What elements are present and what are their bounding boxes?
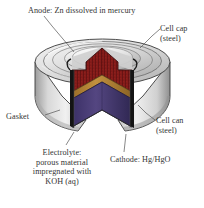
leader-electrolyte	[66, 132, 74, 145]
leader-cell-cap	[140, 29, 160, 48]
label-anode: Anode: Zn dissolved in mercury	[28, 6, 135, 16]
battery-cutaway-figure: Anode: Zn dissolved in mercury Cell cap …	[0, 0, 204, 208]
label-cathode: Cathode: Hg/HgO	[110, 155, 171, 165]
label-gasket: Gasket	[6, 112, 29, 122]
label-cell-cap: Cell cap (steel)	[160, 24, 187, 43]
cutaway-wedge	[67, 47, 137, 128]
label-cell-can: Cell can (steel)	[156, 116, 183, 135]
label-electrolyte: Electrolyte: porous material impregnated…	[14, 148, 110, 186]
gasket-left	[70, 70, 74, 128]
leader-cathode	[124, 134, 126, 152]
gasket-right	[130, 70, 134, 128]
